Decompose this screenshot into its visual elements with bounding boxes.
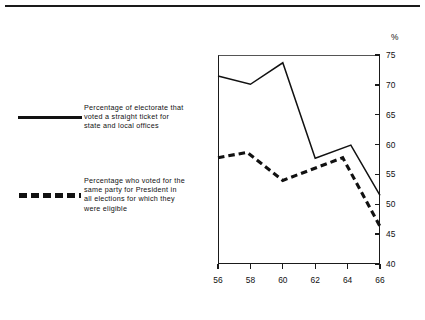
- x-tick-mark: [217, 264, 218, 269]
- plot-area: [218, 55, 380, 264]
- x-tick-mark: [379, 264, 380, 269]
- y-tick-mark: [375, 114, 380, 115]
- y-tick-mark: [375, 204, 380, 205]
- x-tick-label: 56: [208, 275, 228, 285]
- y-tick-mark: [375, 174, 380, 175]
- y-tick-label: 75: [386, 50, 395, 60]
- y-tick-mark: [375, 84, 380, 85]
- y-tick-label: 70: [386, 80, 395, 90]
- y-tick-label: 40: [386, 259, 395, 269]
- x-tick-label: 60: [273, 275, 293, 285]
- x-tick-mark: [250, 264, 251, 269]
- chart-figure: Percentage of electorate that voted a st…: [0, 0, 425, 320]
- legend-label-straight-ticket: Percentage of electorate that voted a st…: [84, 103, 216, 131]
- legend-swatch-dashed-line: [19, 193, 81, 198]
- y-tick-label: 65: [386, 110, 395, 120]
- y-tick-label: 45: [386, 229, 395, 239]
- x-tick-mark: [315, 264, 316, 269]
- y-tick-label: 55: [386, 169, 395, 179]
- y-tick-mark: [375, 54, 380, 55]
- chart-legend: Percentage of electorate that voted a st…: [0, 0, 215, 320]
- series-line-same-party-president: [218, 152, 380, 226]
- y-tick-mark: [375, 144, 380, 145]
- x-tick-mark: [347, 264, 348, 269]
- x-tick-mark: [282, 264, 283, 269]
- x-tick-label: 66: [370, 275, 390, 285]
- legend-swatch-solid-line: [18, 116, 82, 119]
- x-tick-label: 64: [338, 275, 358, 285]
- series-line-straight-ticket: [218, 63, 380, 196]
- y-axis-unit-label: %: [391, 32, 398, 42]
- y-tick-label: 50: [386, 199, 395, 209]
- x-tick-label: 62: [305, 275, 325, 285]
- series-lines: [218, 55, 380, 264]
- legend-label-same-party-president: Percentage who voted for the same party …: [84, 176, 216, 213]
- y-tick-label: 60: [386, 140, 395, 150]
- x-tick-label: 58: [240, 275, 260, 285]
- y-tick-mark: [375, 233, 380, 234]
